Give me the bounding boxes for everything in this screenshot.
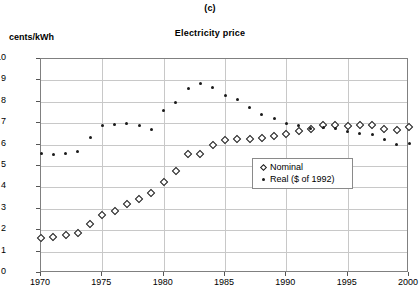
data-point-nominal	[86, 220, 94, 228]
y-axis-label: cents/kWh	[9, 32, 54, 42]
x-tick-label: 1995	[327, 277, 367, 287]
y-tick-label: 4	[0, 181, 6, 190]
gridline-horizontal	[41, 102, 407, 103]
data-point-real-of-1992	[322, 126, 325, 129]
data-point-nominal	[147, 189, 155, 197]
gridline-horizontal	[41, 80, 407, 81]
legend-label-real: Real ($ of 1992)	[269, 173, 335, 185]
data-point-real-of-1992	[334, 127, 337, 130]
y-tick-label: 8	[0, 96, 6, 105]
chart-legend: Nominal Real ($ of 1992)	[252, 158, 353, 189]
data-point-real-of-1992	[236, 98, 239, 101]
data-point-real-of-1992	[297, 124, 300, 127]
data-point-nominal	[98, 211, 106, 219]
data-point-nominal	[405, 123, 413, 131]
data-point-real-of-1992	[162, 109, 165, 112]
data-point-real-of-1992	[395, 143, 398, 146]
data-point-nominal	[37, 233, 45, 241]
gridline-horizontal	[41, 230, 407, 231]
data-point-nominal	[245, 135, 253, 143]
data-point-real-of-1992	[52, 153, 55, 156]
data-point-real-of-1992	[101, 124, 104, 127]
data-point-nominal	[208, 140, 216, 148]
y-tick-label: 9	[0, 74, 6, 83]
data-point-nominal	[184, 150, 192, 158]
legend-label-nominal: Nominal	[269, 161, 303, 173]
gridline-horizontal	[41, 123, 407, 124]
x-tick-mark	[285, 272, 286, 276]
x-tick-label: 2000	[388, 277, 420, 287]
data-point-nominal	[294, 126, 302, 134]
data-point-real-of-1992	[174, 101, 177, 104]
y-tick-label: 0	[0, 267, 6, 276]
panel-label: (c)	[0, 3, 420, 13]
data-point-real-of-1992	[187, 87, 190, 90]
x-tick-label: 1980	[143, 277, 183, 287]
gridline-vertical	[164, 59, 165, 271]
data-point-real-of-1992	[76, 150, 79, 153]
x-tick-label: 1970	[20, 277, 60, 287]
data-point-nominal	[270, 132, 278, 140]
data-point-real-of-1992	[211, 86, 214, 89]
data-point-nominal	[61, 231, 69, 239]
data-point-real-of-1992	[285, 122, 288, 125]
data-point-real-of-1992	[199, 82, 202, 85]
data-point-nominal	[221, 136, 229, 144]
data-point-real-of-1992	[358, 132, 361, 135]
x-tick-label: 1990	[265, 277, 305, 287]
electricity-price-figure: (c) Electricity price cents/kWh 01234567…	[0, 0, 420, 306]
data-point-real-of-1992	[346, 130, 349, 133]
data-point-nominal	[380, 124, 388, 132]
y-tick-label: 10	[0, 53, 6, 62]
data-point-real-of-1992	[40, 152, 43, 155]
data-point-nominal	[233, 135, 241, 143]
x-tick-mark	[408, 272, 409, 276]
data-point-real-of-1992	[138, 124, 141, 127]
y-tick-label: 1	[0, 246, 6, 255]
open-diamond-icon	[257, 165, 269, 170]
data-point-nominal	[258, 134, 266, 142]
x-tick-label: 1975	[81, 277, 121, 287]
y-tick-label: 2	[0, 224, 6, 233]
data-point-real-of-1992	[248, 106, 251, 109]
y-tick-label: 7	[0, 117, 6, 126]
data-point-real-of-1992	[150, 128, 153, 131]
gridline-vertical	[225, 59, 226, 271]
data-point-real-of-1992	[89, 136, 92, 139]
gridline-vertical	[102, 59, 103, 271]
y-tick-label: 5	[0, 160, 6, 169]
data-point-real-of-1992	[273, 117, 276, 120]
data-point-nominal	[282, 130, 290, 138]
data-point-nominal	[196, 150, 204, 158]
data-point-nominal	[49, 232, 57, 240]
legend-item-nominal: Nominal	[257, 161, 348, 173]
y-tick-label: 6	[0, 139, 6, 148]
data-point-real-of-1992	[408, 142, 411, 145]
data-point-nominal	[392, 125, 400, 133]
x-tick-label: 1985	[204, 277, 244, 287]
x-tick-mark	[101, 272, 102, 276]
data-point-real-of-1992	[260, 113, 263, 116]
gridline-horizontal	[41, 209, 407, 210]
data-point-nominal	[135, 195, 143, 203]
y-tick-label: 3	[0, 203, 6, 212]
data-point-real-of-1992	[64, 152, 67, 155]
data-point-nominal	[172, 167, 180, 175]
data-point-real-of-1992	[371, 133, 374, 136]
filled-dot-icon	[257, 178, 269, 181]
x-tick-mark	[40, 272, 41, 276]
data-point-real-of-1992	[383, 138, 386, 141]
data-point-nominal	[123, 200, 131, 208]
gridline-horizontal	[41, 145, 407, 146]
chart-title: Electricity price	[0, 28, 420, 38]
x-tick-mark	[224, 272, 225, 276]
data-point-nominal	[159, 178, 167, 186]
legend-item-real: Real ($ of 1992)	[257, 173, 348, 185]
data-point-real-of-1992	[224, 94, 227, 97]
data-point-real-of-1992	[113, 123, 116, 126]
data-point-real-of-1992	[125, 122, 128, 125]
x-tick-mark	[347, 272, 348, 276]
gridline-horizontal	[41, 252, 407, 253]
x-tick-mark	[163, 272, 164, 276]
